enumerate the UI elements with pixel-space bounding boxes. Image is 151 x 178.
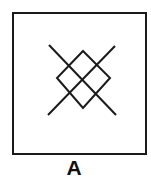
diagram-figure (0, 0, 151, 178)
figure-label: A (60, 157, 88, 178)
